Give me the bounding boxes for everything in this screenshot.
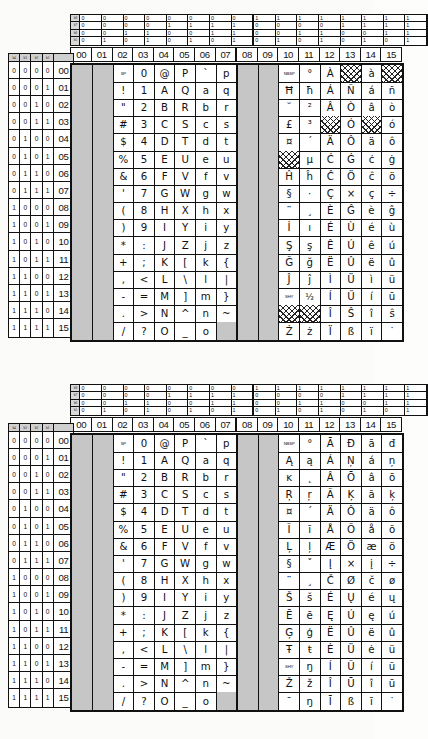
code-cell: < — [134, 271, 155, 289]
left-bit-cell: 0 — [9, 113, 20, 130]
left-bit-cell: 0 — [31, 569, 42, 586]
code-cell: 6 — [134, 538, 155, 556]
code-cell — [72, 219, 93, 237]
code-cell: r — [217, 469, 239, 487]
code-cell: B — [155, 99, 176, 117]
left-bit-cell: 0 — [9, 182, 20, 199]
code-cell: ß — [341, 322, 362, 339]
code-cell: Ų — [341, 589, 362, 607]
code-cell: Q — [175, 452, 196, 470]
code-cell — [72, 202, 93, 220]
code-cell — [93, 322, 114, 339]
code-cell: v — [217, 538, 239, 556]
top-bit-cell: 0 — [362, 30, 384, 37]
column-number: 06 — [195, 418, 216, 431]
code-cell: n — [196, 675, 217, 693]
code-cell: č — [362, 572, 383, 590]
code-cell: " — [114, 469, 135, 487]
left-bit-row: 011006 — [9, 535, 73, 552]
left-bit-cell: 1 — [9, 251, 20, 268]
top-bit-cell: 0 — [276, 400, 298, 407]
code-cell — [93, 236, 114, 254]
code-grid-row: -=M]m}SHYŋÍŨíũ — [72, 658, 402, 675]
code-cell: Z — [175, 236, 196, 254]
top-bit-label: b7 — [71, 22, 80, 29]
left-bit-cell: 1 — [31, 96, 42, 113]
code-cell: ? — [134, 322, 155, 339]
top-bit-cell: 0 — [145, 22, 167, 29]
code-cell — [72, 624, 93, 642]
code-cell: $ — [114, 503, 135, 521]
column-number: 11 — [299, 418, 320, 431]
top-bit-cell: 1 — [405, 392, 427, 399]
left-bit-cell: 0 — [9, 466, 20, 483]
code-cell: Æ — [321, 538, 342, 556]
left-bit-cell: 0 — [20, 96, 31, 113]
top-bit-cell: 1 — [384, 400, 406, 407]
left-bit-cell: 1 — [31, 182, 42, 199]
code-cell: f — [196, 538, 217, 556]
code-cell: Ű — [341, 288, 362, 306]
code-cell: ö — [382, 538, 402, 556]
top-bit-cell: 0 — [188, 30, 210, 37]
top-bit-cell: 0 — [319, 22, 341, 29]
top-bit-row: b70000111100001111 — [71, 392, 427, 399]
code-cell: ù — [382, 219, 402, 237]
code-cell — [93, 675, 114, 693]
left-bit-cell: 0 — [43, 569, 54, 586]
top-bit-cell: 0 — [362, 400, 384, 407]
top-bit-cell: 1 — [145, 407, 167, 414]
left-bit-row: 111115 — [9, 689, 73, 706]
top-bit-label: b7 — [71, 392, 80, 399]
code-cell: ç — [362, 185, 383, 203]
top-bit-cell: 0 — [254, 400, 276, 407]
code-cell — [300, 305, 321, 323]
code-cell — [238, 271, 259, 289]
top-bit-cell: 1 — [405, 385, 427, 392]
top-bit-cell: 1 — [319, 15, 341, 22]
left-bit-cell: 1 — [43, 621, 54, 638]
left-bit-row: 110113 — [9, 655, 73, 672]
code-cell: Ñ — [341, 82, 362, 100]
top-bit-cell: 1 — [232, 400, 255, 407]
code-cell: Ŝ — [341, 305, 362, 323]
top-bit-cell: 1 — [297, 385, 319, 392]
top-bit-cell: 1 — [167, 22, 189, 29]
code-cell: A — [155, 82, 176, 100]
code-cell: k — [196, 254, 217, 272]
left-bit-cell: 1 — [43, 552, 54, 569]
left-bit-cell: 0 — [31, 432, 42, 449]
code-cell — [72, 151, 93, 169]
code-cell: \ — [175, 271, 196, 289]
code-cell: U — [175, 521, 196, 539]
code-cell: ż — [300, 322, 321, 339]
left-bit-label: b4 — [9, 424, 20, 432]
code-cell: Z — [175, 606, 196, 624]
code-cell: a — [196, 452, 217, 470]
left-bit-cell: 1 — [9, 199, 20, 216]
code-cell: ˇ — [300, 555, 321, 573]
code-cell — [238, 692, 259, 709]
code-cell: â — [362, 99, 383, 117]
left-bit-label: b3 — [20, 424, 31, 432]
code-cell — [259, 133, 280, 151]
left-bit-cell: 1 — [43, 79, 54, 96]
left-bit-cell: 0 — [43, 302, 54, 319]
code-cell — [238, 254, 259, 272]
code-cell: u — [217, 151, 239, 169]
left-bit-cell: 0 — [31, 148, 42, 165]
left-bit-cell: 1 — [9, 285, 20, 302]
code-cell — [259, 641, 280, 659]
top-bit-cell: 1 — [362, 407, 384, 414]
code-cell: ä — [362, 133, 383, 151]
code-cell: ¨ — [279, 572, 300, 590]
code-cell: ŧ — [300, 641, 321, 659]
code-cell: L — [155, 271, 176, 289]
code-cell: Ú — [341, 236, 362, 254]
code-cell: Ž — [279, 675, 300, 693]
code-cell — [93, 469, 114, 487]
code-cell: Ķ — [341, 486, 362, 504]
code-cell: X — [175, 202, 196, 220]
left-bit-cell: 1 — [31, 483, 42, 500]
top-bit-cell: 0 — [254, 30, 276, 37]
